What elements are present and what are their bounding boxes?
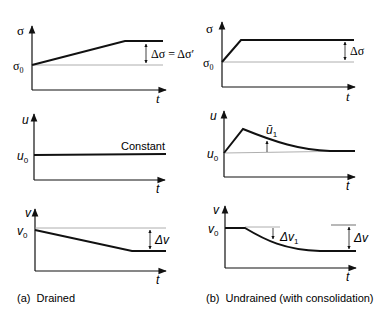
- origin-label: σ0: [13, 59, 23, 75]
- pore-curve: [224, 129, 355, 153]
- axis-label: σ: [17, 23, 24, 38]
- t-label: t: [156, 91, 160, 106]
- axis-label: v: [25, 206, 32, 220]
- axis-label: u: [22, 113, 29, 127]
- drained-stress-plot: σ σ0 Δσ = Δσ′ t: [13, 23, 194, 106]
- stress-curve: [222, 40, 354, 62]
- caption-drained: (a) Drained: [17, 292, 75, 304]
- delta-label: Δσ: [350, 44, 365, 58]
- origin-label: v0: [208, 222, 219, 238]
- stress-curve: [32, 41, 163, 65]
- t-label: t: [156, 182, 160, 196]
- axis-label: u: [210, 109, 217, 123]
- axis-label: v: [213, 203, 220, 217]
- t-label: t: [346, 179, 350, 193]
- undrained-volume-plot: v v0 Δv1 Δv t: [208, 203, 369, 284]
- t-label: t: [156, 273, 160, 287]
- volume-curve: [35, 230, 166, 251]
- caption-undrained: (b) Undrained (with consolidation): [206, 292, 374, 304]
- constant-label: Constant: [121, 140, 165, 152]
- origin-label: v0: [17, 224, 28, 240]
- delta-label: Δv: [154, 233, 170, 247]
- drained-volume-plot: v v0 Δv t: [17, 206, 170, 287]
- undrained-stress-plot: σ σ0 Δσ t: [203, 21, 365, 104]
- undrained-pore-plot: u u0 ū1 t: [207, 109, 355, 193]
- origin-label: u0: [207, 147, 219, 163]
- delta-label: Δσ = Δσ′: [151, 47, 194, 61]
- axis-label: σ: [206, 21, 213, 36]
- delta1-label: Δv1: [279, 230, 299, 246]
- delta-label: Δv: [353, 231, 369, 245]
- t-label: t: [346, 89, 350, 104]
- pore-curve: [34, 154, 166, 155]
- origin-label: u0: [17, 149, 29, 165]
- origin-label: σ0: [203, 56, 213, 72]
- diagram-canvas: σ σ0 Δσ = Δσ′ t σ σ0 Δσ t u u0 Constant …: [0, 0, 383, 323]
- peak-label: ū1: [266, 123, 278, 139]
- drained-pore-plot: u u0 Constant t: [17, 113, 166, 196]
- t-label: t: [346, 270, 350, 284]
